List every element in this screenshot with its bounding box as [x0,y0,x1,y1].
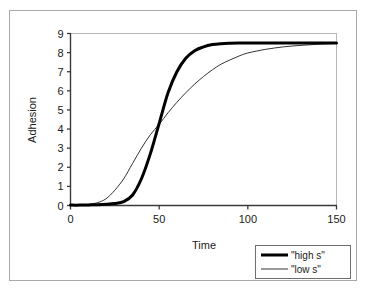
x-axis-title: Time [192,239,216,251]
x-axis-tick-labels: 050100150 [67,213,345,225]
series-line-1 [71,43,337,205]
x-tick-label-3: 150 [327,213,345,225]
legend-label-low-s: "low s" [291,264,321,275]
figure-container: 0123456789 050100150 Adhesion Time "high… [0,0,366,289]
y-tick-label-0: 0 [57,200,63,212]
legend[interactable]: "high s" "low s" [256,246,351,279]
y-tick-label-9: 9 [57,28,63,40]
x-tick-label-0: 0 [67,213,73,225]
chart-plot: 0123456789 050100150 Adhesion Time "high… [0,0,366,289]
y-tick-label-4: 4 [57,123,63,135]
x-tick-label-2: 100 [239,213,257,225]
y-axis-title: Adhesion [26,97,38,143]
y-tick-label-3: 3 [57,142,63,154]
y-tick-label-2: 2 [57,161,63,173]
y-tick-label-7: 7 [57,66,63,78]
y-tick-label-8: 8 [57,47,63,59]
legend-label-high-s: "high s" [291,250,325,261]
y-tick-label-1: 1 [57,180,63,192]
series-line-0 [71,43,337,205]
plot-area-frame [70,33,337,206]
y-axis-tick-labels: 0123456789 [57,28,63,212]
y-tick-label-5: 5 [57,104,63,116]
data-series-group [71,43,337,205]
x-tick-label-1: 50 [153,213,165,225]
y-tick-label-6: 6 [57,85,63,97]
